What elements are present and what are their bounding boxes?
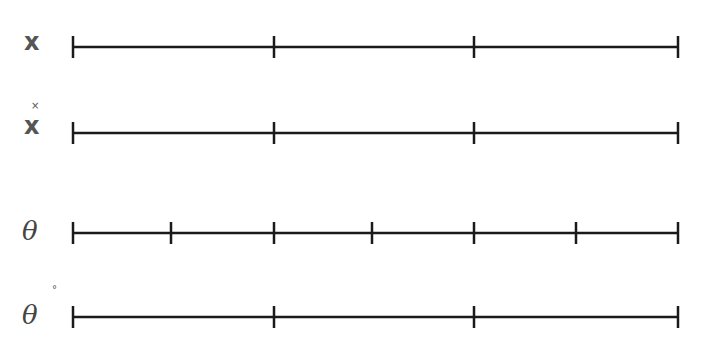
axis-row-3 xyxy=(73,306,678,328)
discretization-axes xyxy=(0,0,702,356)
axis-row-1 xyxy=(73,122,678,144)
axis-row-0 xyxy=(73,36,678,58)
axis-row-2 xyxy=(73,222,678,244)
